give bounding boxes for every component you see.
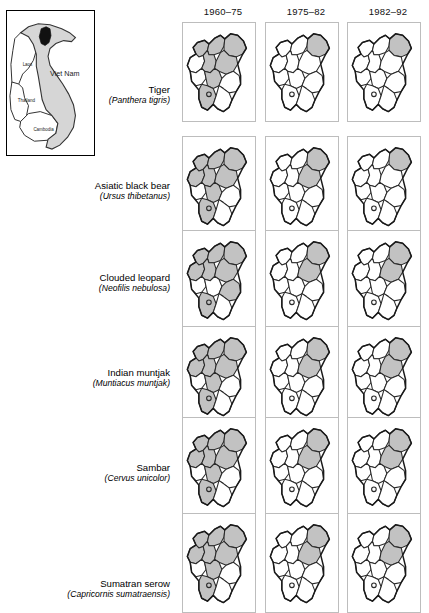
distribution-map	[266, 514, 338, 612]
species-common-name: Indian muntjak	[10, 367, 170, 378]
species-latin-name: (Capricornis sumatraensis)	[10, 589, 170, 600]
inset-label-cambodia: Cambodia	[33, 127, 54, 132]
column-header-1960-75: 1960–75	[182, 6, 264, 17]
map-panel	[265, 22, 339, 122]
map-panel	[347, 230, 421, 330]
distribution-map	[348, 514, 420, 612]
distribution-map	[183, 23, 255, 121]
species-latin-name: (Ursus thibetanus)	[10, 191, 170, 202]
species-common-name: Sambar	[10, 462, 170, 473]
species-common-name: Sumatran serow	[10, 578, 170, 589]
row-label-sambar: Sambar (Cervus unicolor)	[10, 462, 170, 484]
map-panel	[265, 136, 339, 236]
species-latin-name: (Cervus unicolor)	[10, 473, 170, 484]
species-common-name: Tiger	[10, 84, 170, 95]
distribution-map	[348, 231, 420, 329]
column-header-1982-92: 1982–92	[347, 6, 429, 17]
row-label-tiger: Tiger (Panthera tigris)	[10, 84, 170, 106]
distribution-map	[348, 327, 420, 425]
row-label-indian-muntjak: Indian muntjak (Muntiacus muntjak)	[10, 367, 170, 389]
map-panel	[182, 513, 256, 613]
map-panel	[347, 326, 421, 426]
distribution-map	[183, 514, 255, 612]
map-panel	[265, 230, 339, 330]
distribution-map	[183, 137, 255, 235]
inset-locator-map: Laos Viet Nam Thailand Cambodia	[6, 10, 95, 156]
distribution-map	[266, 327, 338, 425]
map-panel	[182, 136, 256, 236]
map-panel	[182, 326, 256, 426]
map-panel	[182, 417, 256, 517]
inset-label-laos: Laos	[23, 62, 33, 67]
distribution-map	[183, 231, 255, 329]
distribution-map	[266, 137, 338, 235]
map-panel	[265, 417, 339, 517]
map-panel	[347, 417, 421, 517]
study-area-highlight	[39, 27, 51, 46]
species-common-name: Clouded leopard	[10, 272, 170, 283]
species-latin-name: (Panthera tigris)	[10, 95, 170, 106]
distribution-map	[183, 418, 255, 516]
map-panel	[265, 513, 339, 613]
species-latin-name: (Neofilis nebulosa)	[10, 283, 170, 294]
species-latin-name: (Muntiacus muntjak)	[10, 378, 170, 389]
row-label-clouded-leopard: Clouded leopard (Neofilis nebulosa)	[10, 272, 170, 294]
row-label-sumatran-serow: Sumatran serow (Capricornis sumatraensis…	[10, 578, 170, 600]
row-label-asiatic-black-bear: Asiatic black bear (Ursus thibetanus)	[10, 180, 170, 202]
distribution-map	[348, 23, 420, 121]
inset-map-svg: Laos Viet Nam Thailand Cambodia	[7, 11, 94, 155]
distribution-map	[183, 327, 255, 425]
distribution-map	[266, 231, 338, 329]
map-panel	[265, 326, 339, 426]
column-header-1975-82: 1975–82	[265, 6, 347, 17]
distribution-map	[348, 137, 420, 235]
map-panel	[182, 230, 256, 330]
species-common-name: Asiatic black bear	[10, 180, 170, 191]
distribution-map	[266, 23, 338, 121]
map-panel	[347, 513, 421, 613]
map-panel	[347, 136, 421, 236]
inset-label-vietnam: Viet Nam	[50, 69, 80, 78]
map-panel	[347, 22, 421, 122]
distribution-map	[266, 418, 338, 516]
map-panel	[182, 22, 256, 122]
distribution-map	[348, 418, 420, 516]
